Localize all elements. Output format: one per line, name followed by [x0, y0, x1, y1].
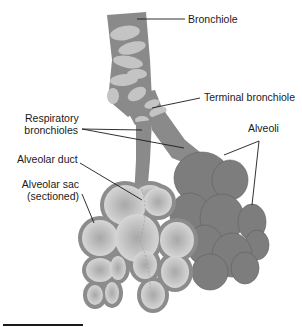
label-bronchiole: Bronchiole: [188, 13, 238, 25]
label-respiratory-bronchioles-line1: Respiratory: [25, 112, 78, 124]
label-alveolar-sac-line1: Alveolar sac: [20, 178, 79, 190]
label-alveoli: Alveoli: [248, 122, 279, 134]
label-terminal-bronchiole: Terminal bronchiole: [204, 91, 295, 103]
scale-bar: [3, 324, 83, 326]
label-alveolar-sac-line2: (sectioned): [20, 190, 79, 202]
label-respiratory-bronchioles-line2: bronchioles: [24, 124, 78, 136]
label-alveolar-duct: Alveolar duct: [17, 153, 78, 165]
